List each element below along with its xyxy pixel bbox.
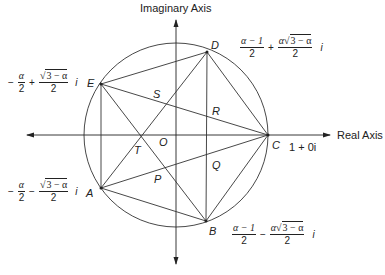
operator: − (29, 186, 35, 197)
numerator: α − 1 (240, 36, 264, 48)
denominator: 2 (51, 83, 57, 94)
operator: + (268, 42, 274, 53)
expression-b: α − 1 2 − α√3 − α 2 i (230, 223, 317, 246)
numerator: α (18, 71, 25, 83)
denominator: 2 (19, 83, 25, 94)
point-label-d: D (211, 40, 219, 51)
expression-e: − α 2 + √3 − α 2 i (6, 71, 80, 94)
sign: − (8, 186, 14, 197)
radicand: 3 − α (290, 34, 312, 46)
point-label-o: O (159, 137, 168, 148)
denominator: 2 (292, 48, 298, 59)
imaginary-unit: i (320, 42, 322, 53)
expression-d: α − 1 2 + α√3 − α 2 i (238, 36, 325, 59)
imaginary-axis-label: Imaginary Axis (140, 3, 212, 14)
point-label-b: B (209, 226, 216, 237)
point-label-c: C (272, 140, 280, 151)
point-label-t: T (134, 145, 141, 156)
radicand: 3 − α (282, 221, 304, 233)
radicand: 3 − α (45, 69, 67, 81)
fraction: α√3 − α 2 (278, 36, 313, 59)
operator: + (29, 77, 35, 88)
denominator: 2 (241, 235, 247, 246)
denominator: 2 (249, 48, 255, 59)
radicand: 3 − α (45, 178, 67, 190)
imaginary-unit: i (75, 77, 77, 88)
numerator-prefix: α√ (271, 222, 282, 233)
expression-c: 1 + 0i (289, 141, 316, 153)
expression-c-text: 1 + 0i (289, 141, 316, 153)
imaginary-unit: i (312, 229, 314, 240)
expression-a: − α 2 − √3 − α 2 i (6, 180, 80, 203)
argand-diagram (0, 0, 385, 275)
fraction: √3 − α 2 (39, 180, 68, 203)
point-label-p: P (154, 174, 161, 185)
fraction: α 2 (18, 180, 25, 203)
imaginary-unit: i (75, 186, 77, 197)
fraction: α − 1 2 (232, 223, 256, 246)
denominator: 2 (19, 192, 25, 203)
numerator: α − 1 (232, 223, 256, 235)
numerator-prefix: α√ (279, 35, 290, 46)
point-label-s: S (153, 89, 160, 100)
point-label-e: E (87, 78, 94, 89)
fraction: √3 − α 2 (39, 71, 68, 94)
point-label-r: R (212, 106, 220, 117)
real-axis-label: Real Axis (337, 130, 383, 141)
fraction: α√3 − α 2 (270, 223, 305, 246)
pentagon (101, 52, 268, 221)
denominator: 2 (284, 235, 290, 246)
sign: − (8, 77, 14, 88)
point-label-q: Q (212, 160, 221, 171)
fraction: α 2 (18, 71, 25, 94)
point-label-a: A (86, 188, 93, 199)
fraction: α − 1 2 (240, 36, 264, 59)
operator: − (260, 229, 266, 240)
denominator: 2 (51, 192, 57, 203)
numerator: α (18, 180, 25, 192)
